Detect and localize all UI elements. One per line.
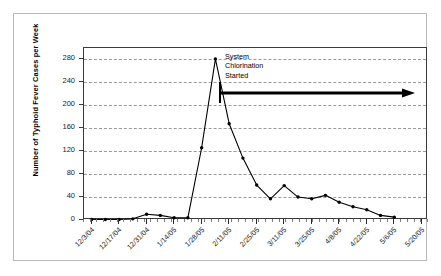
x-axis-minor-tick (265, 219, 266, 222)
data-point (145, 213, 148, 216)
x-axis-major-tick (118, 219, 119, 224)
y-axis-tick-label: 0 (49, 215, 75, 223)
x-axis-major-tick (201, 219, 202, 224)
x-axis-major-tick (393, 219, 394, 224)
x-axis-major-tick (421, 219, 422, 224)
data-point (351, 205, 354, 208)
x-axis-minor-tick (306, 219, 307, 222)
x-axis-tick-label: 5/6/05 (369, 225, 398, 254)
data-point (214, 57, 217, 60)
x-axis-minor-tick (171, 219, 172, 222)
x-axis-tick-label: 3/11/05 (259, 225, 288, 254)
data-point (365, 208, 368, 211)
x-axis-tick-label: 4/22/05 (342, 225, 371, 254)
data-point (255, 183, 258, 186)
data-point (324, 194, 327, 197)
y-axis-title: Number of Typhoid Fever Cases per Week (29, 14, 43, 186)
x-axis-minor-tick (198, 219, 199, 222)
x-axis-tick-label: 1/14/05 (149, 225, 178, 254)
data-point (283, 184, 286, 187)
data-point (296, 195, 299, 198)
x-axis-major-tick (283, 219, 284, 224)
x-axis-tick-label: 4/8/05 (314, 225, 343, 254)
x-axis-minor-tick (346, 219, 347, 222)
x-axis-minor-tick (252, 219, 253, 222)
x-axis-minor-tick (245, 219, 246, 222)
figure-frame: Number of Typhoid Fever Cases per Week 0… (13, 13, 427, 261)
x-axis-minor-tick (157, 219, 158, 222)
x-axis-major-tick (311, 219, 312, 224)
y-axis-tick-label: 80 (49, 169, 75, 177)
x-axis-tick-label: 5/20/05 (397, 225, 426, 254)
x-axis-minor-tick (137, 219, 138, 222)
x-axis-major-tick (173, 219, 174, 224)
x-axis-minor-tick (326, 219, 327, 222)
x-axis-minor-tick (177, 219, 178, 222)
x-axis-minor-tick (292, 219, 293, 222)
x-axis-minor-tick (225, 219, 226, 222)
x-axis-minor-tick (285, 219, 286, 222)
x-axis-tick-label: 1/28/05 (177, 225, 206, 254)
x-axis-minor-tick (407, 219, 408, 222)
x-axis-minor-tick (387, 219, 388, 222)
x-axis-minor-tick (238, 219, 239, 222)
x-axis-minor-tick (380, 219, 381, 222)
x-axis-tick-label: 12/31/04 (122, 225, 151, 254)
x-axis-minor-tick (96, 219, 97, 222)
x-axis-tick-label: 2/11/05 (204, 225, 233, 254)
x-axis-minor-tick (184, 219, 185, 222)
x-axis-minor-tick (299, 219, 300, 222)
x-axis-minor-tick (211, 219, 212, 222)
x-axis-major-tick (146, 219, 147, 224)
x-axis-minor-tick (130, 219, 131, 222)
x-axis-major-tick (366, 219, 367, 224)
data-point (227, 122, 230, 125)
x-axis-minor-tick (312, 219, 313, 222)
x-axis-minor-tick (360, 219, 361, 222)
data-point (379, 214, 382, 217)
x-axis-minor-tick (218, 219, 219, 222)
x-axis-minor-tick (279, 219, 280, 222)
x-axis-minor-tick (400, 219, 401, 222)
x-axis-minor-tick (164, 219, 165, 222)
x-axis-minor-tick (353, 219, 354, 222)
x-axis-minor-tick (319, 219, 320, 222)
x-axis-minor-tick (333, 219, 334, 222)
data-point (200, 146, 203, 149)
data-point (241, 156, 244, 159)
x-axis-minor-tick (272, 219, 273, 222)
figure-container: Number of Typhoid Fever Cases per Week 0… (0, 0, 441, 276)
data-point (269, 197, 272, 200)
y-axis-tick-label: 40 (49, 192, 75, 200)
x-axis-tick-label: 12/3/04 (67, 225, 96, 254)
x-axis-minor-tick (150, 219, 151, 222)
x-axis-minor-tick (258, 219, 259, 222)
data-point (131, 217, 134, 220)
y-axis-tick-label: 160 (49, 123, 75, 131)
x-axis-minor-tick (103, 219, 104, 222)
x-axis-minor-tick (191, 219, 192, 222)
x-axis-major-tick (338, 219, 339, 224)
x-axis-minor-tick (339, 219, 340, 222)
x-axis-tick-label: 3/25/05 (287, 225, 316, 254)
x-axis-minor-tick (414, 219, 415, 222)
chlorination-annotation-label: System Chlorination Started (225, 52, 263, 80)
x-axis-minor-tick (204, 219, 205, 222)
x-axis-minor-tick (123, 219, 124, 222)
data-point (159, 214, 162, 217)
x-axis-minor-tick (427, 219, 428, 222)
series-markers (90, 57, 396, 221)
series-line (92, 59, 395, 220)
y-axis-tick-label: 240 (49, 77, 75, 85)
y-axis-tick-label: 200 (49, 100, 75, 108)
x-axis-minor-tick (231, 219, 232, 222)
x-axis-minor-tick (373, 219, 374, 222)
data-point (310, 197, 313, 200)
y-axis-tick-label: 280 (49, 54, 75, 62)
x-axis-minor-tick (83, 219, 84, 222)
x-axis-major-tick (256, 219, 257, 224)
x-axis-minor-tick (144, 219, 145, 222)
x-axis-major-tick (228, 219, 229, 224)
x-axis-major-tick (91, 219, 92, 224)
chlorination-period-arrow (218, 88, 416, 98)
